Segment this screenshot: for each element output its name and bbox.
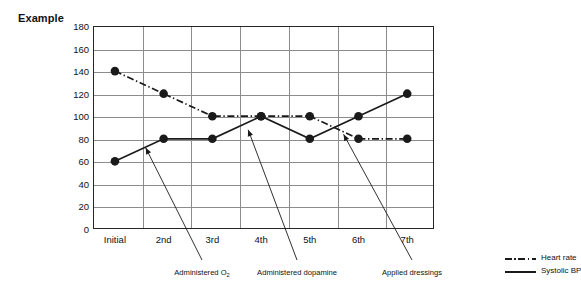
x-axis-label: 5th [303, 234, 316, 245]
x-axis-label: 6th [352, 234, 365, 245]
legend-swatch-dash-dot [505, 258, 536, 260]
gridline-horizontal [94, 207, 433, 208]
x-axis-label: Initial [104, 234, 126, 245]
gridline-horizontal [94, 162, 433, 163]
y-axis-label: 180 [59, 21, 89, 32]
y-axis-label: 80 [59, 133, 89, 144]
y-axis-label: 60 [59, 156, 89, 167]
annotation-subscript: 2 [227, 272, 230, 278]
page-title: Example [18, 12, 64, 24]
y-axis-label: 100 [59, 111, 89, 122]
legend-label: Systolic BP [541, 266, 581, 275]
y-axis-label: 160 [59, 43, 89, 54]
gridline-horizontal [94, 140, 433, 141]
legend-swatch-solid [505, 271, 536, 273]
x-axis-label: 7th [401, 234, 414, 245]
annotation-label: Administered dopamine [257, 268, 337, 277]
y-axis-label: 120 [59, 88, 89, 99]
plot-area [93, 26, 434, 229]
y-axis-label: 140 [59, 66, 89, 77]
y-axis-label: 0 [59, 224, 89, 235]
gridline-horizontal [94, 72, 433, 73]
y-axis-tick-labels: 180160140120100806040200 [57, 26, 89, 229]
annotation-text: Applied dressings [382, 268, 442, 277]
y-axis-label: 40 [59, 178, 89, 189]
x-axis-label: 4th [254, 234, 267, 245]
gridline-vertical [191, 27, 192, 228]
annotation-text: Administered dopamine [257, 268, 337, 277]
gridline-vertical [240, 27, 241, 228]
gridline-horizontal [94, 117, 433, 118]
gridline-horizontal [94, 50, 433, 51]
gridline-vertical [289, 27, 290, 228]
annotation-text: Administered O [174, 268, 226, 277]
gridline-vertical [338, 27, 339, 228]
y-axis-label: 20 [59, 201, 89, 212]
x-axis-label: 2nd [156, 234, 172, 245]
gridline-horizontal [94, 185, 433, 186]
gridline-vertical [143, 27, 144, 228]
gridline-vertical [386, 27, 387, 228]
x-axis-label: 3rd [205, 234, 219, 245]
annotation-label: Applied dressings [382, 268, 442, 277]
x-axis-tick-labels: Initial2nd3rd4th5th6th7th [93, 234, 434, 248]
gridline-horizontal [94, 95, 433, 96]
legend-label: Heart rate [541, 253, 577, 262]
annotation-label: Administered O2 [174, 268, 229, 277]
